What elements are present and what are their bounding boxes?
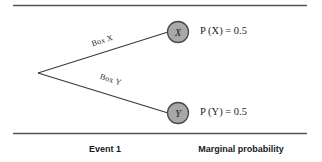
caption-event-1: Event 1 bbox=[60, 144, 150, 154]
probability-label-x: P (X) = 0.5 bbox=[200, 25, 247, 36]
caption-marginal-probability: Marginal probability bbox=[186, 144, 296, 154]
node-label-x: X bbox=[174, 27, 182, 38]
probability-tree-figure: Box X Box Y X Y P (X) = 0.5 P (Y) = 0.5 … bbox=[0, 0, 322, 162]
probability-label-y: P (Y) = 0.5 bbox=[200, 106, 247, 117]
branch-label-y: Box Y bbox=[99, 72, 123, 87]
branch-label-x: Box X bbox=[90, 33, 114, 48]
tree-diagram-svg: Box X Box Y X Y bbox=[0, 0, 322, 162]
